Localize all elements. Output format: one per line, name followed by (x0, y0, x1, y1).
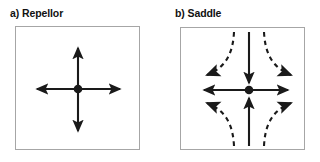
panel-label-repellor: a) Repellor (10, 6, 63, 20)
saddle-equilibrium-point (245, 86, 254, 95)
plot-frame-saddle (180, 27, 305, 150)
saddle-dashed-upper-right (264, 32, 291, 75)
panel-saddle: b) Saddle (160, 0, 320, 162)
plot-frame-repellor (15, 26, 140, 150)
saddle-dashed-lower-right (264, 103, 291, 146)
saddle-dashed-upper-left (207, 32, 234, 75)
saddle-dashed-lower-left (207, 103, 234, 146)
panel-label-saddle: b) Saddle (175, 6, 221, 20)
saddle-phase-portrait (181, 28, 304, 149)
repellor-phase-portrait (16, 27, 139, 149)
panel-repellor: a) Repellor (0, 0, 160, 162)
figure-root: a) Repellor b) Saddle (0, 0, 320, 162)
repellor-equilibrium-point (74, 85, 83, 94)
